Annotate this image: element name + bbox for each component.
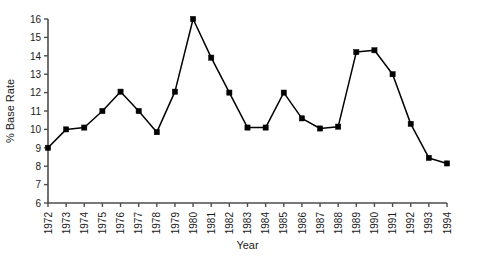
data-point-marker xyxy=(372,48,377,53)
x-tick-label: 1992 xyxy=(405,212,416,235)
y-tick-label: 16 xyxy=(30,14,42,25)
x-tick-label: 1986 xyxy=(297,212,308,235)
x-tick-label: 1974 xyxy=(79,212,90,235)
y-tick-label: 9 xyxy=(35,143,41,154)
y-tick-label: 7 xyxy=(35,179,41,190)
x-tick-label: 1985 xyxy=(278,212,289,235)
data-point-marker xyxy=(190,16,195,21)
x-tick-label: 1980 xyxy=(188,212,199,235)
data-point-marker xyxy=(281,90,286,95)
x-tick-label: 1989 xyxy=(351,212,362,235)
x-tick-label: 1973 xyxy=(61,212,72,235)
y-axis-title: % Base Rate xyxy=(4,79,16,143)
x-tick-label: 1988 xyxy=(333,212,344,235)
data-point-marker xyxy=(118,89,123,94)
data-point-marker xyxy=(154,130,159,135)
x-tick-label: 1976 xyxy=(115,212,126,235)
data-point-marker xyxy=(227,90,232,95)
data-line-series xyxy=(48,19,447,163)
y-tick-label: 6 xyxy=(35,198,41,209)
data-point-marker xyxy=(245,125,250,130)
data-point-marker xyxy=(299,116,304,121)
x-tick-label: 1978 xyxy=(151,212,162,235)
x-tick-label: 1991 xyxy=(387,212,398,235)
data-point-marker xyxy=(136,108,141,113)
x-tick-label: 1993 xyxy=(423,212,434,235)
x-tick-label: 1984 xyxy=(260,212,271,235)
data-point-marker xyxy=(45,145,50,150)
x-axis-title: Year xyxy=(236,239,259,251)
y-tick-label: 12 xyxy=(30,87,42,98)
y-tick-label: 10 xyxy=(30,124,42,135)
data-point-marker xyxy=(354,50,359,55)
data-point-marker xyxy=(64,127,69,132)
x-tick-label: 1987 xyxy=(315,212,326,235)
y-tick-label: 13 xyxy=(30,69,42,80)
data-point-marker xyxy=(100,108,105,113)
y-tick-label: 11 xyxy=(31,106,42,117)
data-point-marker xyxy=(82,125,87,130)
data-point-marker xyxy=(317,126,322,131)
data-point-marker xyxy=(390,72,395,77)
x-tick-label: 1990 xyxy=(369,212,380,235)
data-point-marker xyxy=(444,161,449,166)
x-tick-label: 1982 xyxy=(224,212,235,235)
data-point-marker xyxy=(336,124,341,129)
data-point-marker xyxy=(263,125,268,130)
x-tick-label: 1979 xyxy=(170,212,181,235)
x-tick-label: 1977 xyxy=(133,212,144,235)
data-point-marker xyxy=(426,155,431,160)
x-tick-label: 1981 xyxy=(206,212,217,235)
x-tick-label: 1975 xyxy=(97,212,108,235)
x-tick-label: 1994 xyxy=(442,212,453,235)
x-tick-label: 1983 xyxy=(242,212,253,235)
x-tick-label: 1972 xyxy=(43,212,54,235)
y-tick-label: 8 xyxy=(35,161,41,172)
data-point-marker xyxy=(408,121,413,126)
y-tick-label: 14 xyxy=(30,51,42,62)
data-point-marker xyxy=(209,55,214,60)
chart-container: 6789101112131415161972197319741975197619… xyxy=(0,0,500,256)
line-chart: 6789101112131415161972197319741975197619… xyxy=(0,0,500,256)
data-point-marker xyxy=(172,89,177,94)
y-tick-label: 15 xyxy=(30,32,42,43)
